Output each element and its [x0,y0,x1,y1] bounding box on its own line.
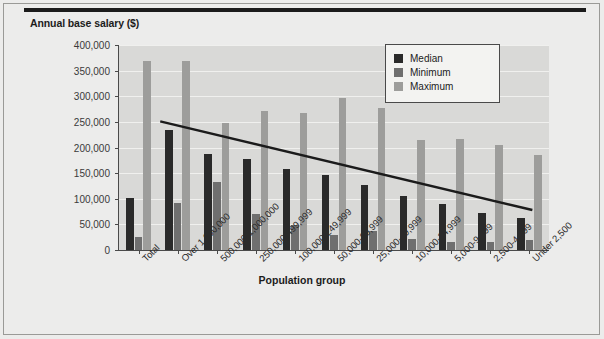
bar-maximum [300,113,308,250]
bar-maximum [378,108,386,250]
x-tick-mark [217,250,218,254]
chart-legend: MedianMinimumMaximum [385,44,500,103]
bar-minimum [174,203,182,250]
bar-maximum [534,155,542,250]
y-tick-mark [115,224,119,225]
x-tick-mark [139,250,140,254]
x-tick-mark [412,250,413,254]
legend-swatch-maximum [394,82,403,91]
y-tick-mark [115,96,119,97]
y-tick-label: 350,000 [48,65,110,76]
bar-median [165,130,173,250]
bar-minimum [135,237,143,250]
bar-group [165,45,190,250]
y-tick-mark [115,173,119,174]
bar-group [517,45,542,250]
top-rule-divider [24,8,586,12]
y-tick-mark [115,71,119,72]
bar-minimum [447,242,455,250]
x-tick-mark [334,250,335,254]
bar-maximum [456,139,464,250]
bar-group [126,45,151,250]
bar-minimum [408,239,416,250]
legend-item-label: Maximum [410,81,453,92]
legend-item: Maximum [394,81,491,92]
bar-maximum [182,61,190,250]
bar-maximum [495,145,503,250]
bar-maximum [143,61,151,250]
x-tick-mark [529,250,530,254]
bar-maximum [417,140,425,250]
bar-minimum [487,242,495,250]
y-tick-mark [115,45,119,46]
y-tick-label: 200,000 [48,142,110,153]
y-axis-title: Annual base salary ($) [30,17,139,29]
chart-figure: Annual base salary ($) 400,000350,000300… [0,0,604,339]
bar-maximum [222,123,230,250]
legend-item-label: Median [410,53,443,64]
x-axis-title: Population group [0,274,604,286]
bar-maximum [261,111,269,250]
legend-swatch-median [394,54,403,63]
legend-item: Median [394,53,491,64]
x-tick-mark [451,250,452,254]
y-tick-mark [115,122,119,123]
y-tick-label: 50,000 [48,219,110,230]
x-tick-mark [295,250,296,254]
y-tick-mark [115,199,119,200]
bar-median [126,198,134,250]
bar-minimum [330,235,338,250]
y-tick-mark [115,250,119,251]
legend-item-label: Minimum [410,67,451,78]
y-tick-mark [115,148,119,149]
y-tick-label: 400,000 [48,40,110,51]
y-tick-label: 100,000 [48,193,110,204]
legend-swatch-minimum [394,68,403,77]
y-tick-label: 150,000 [48,168,110,179]
y-tick-label: 300,000 [48,91,110,102]
bar-minimum [526,240,534,250]
y-tick-label: 250,000 [48,116,110,127]
x-tick-mark [490,250,491,254]
x-tick-mark [256,250,257,254]
y-tick-label: 0 [48,245,110,256]
x-tick-mark [373,250,374,254]
x-tick-mark [178,250,179,254]
legend-item: Minimum [394,67,491,78]
